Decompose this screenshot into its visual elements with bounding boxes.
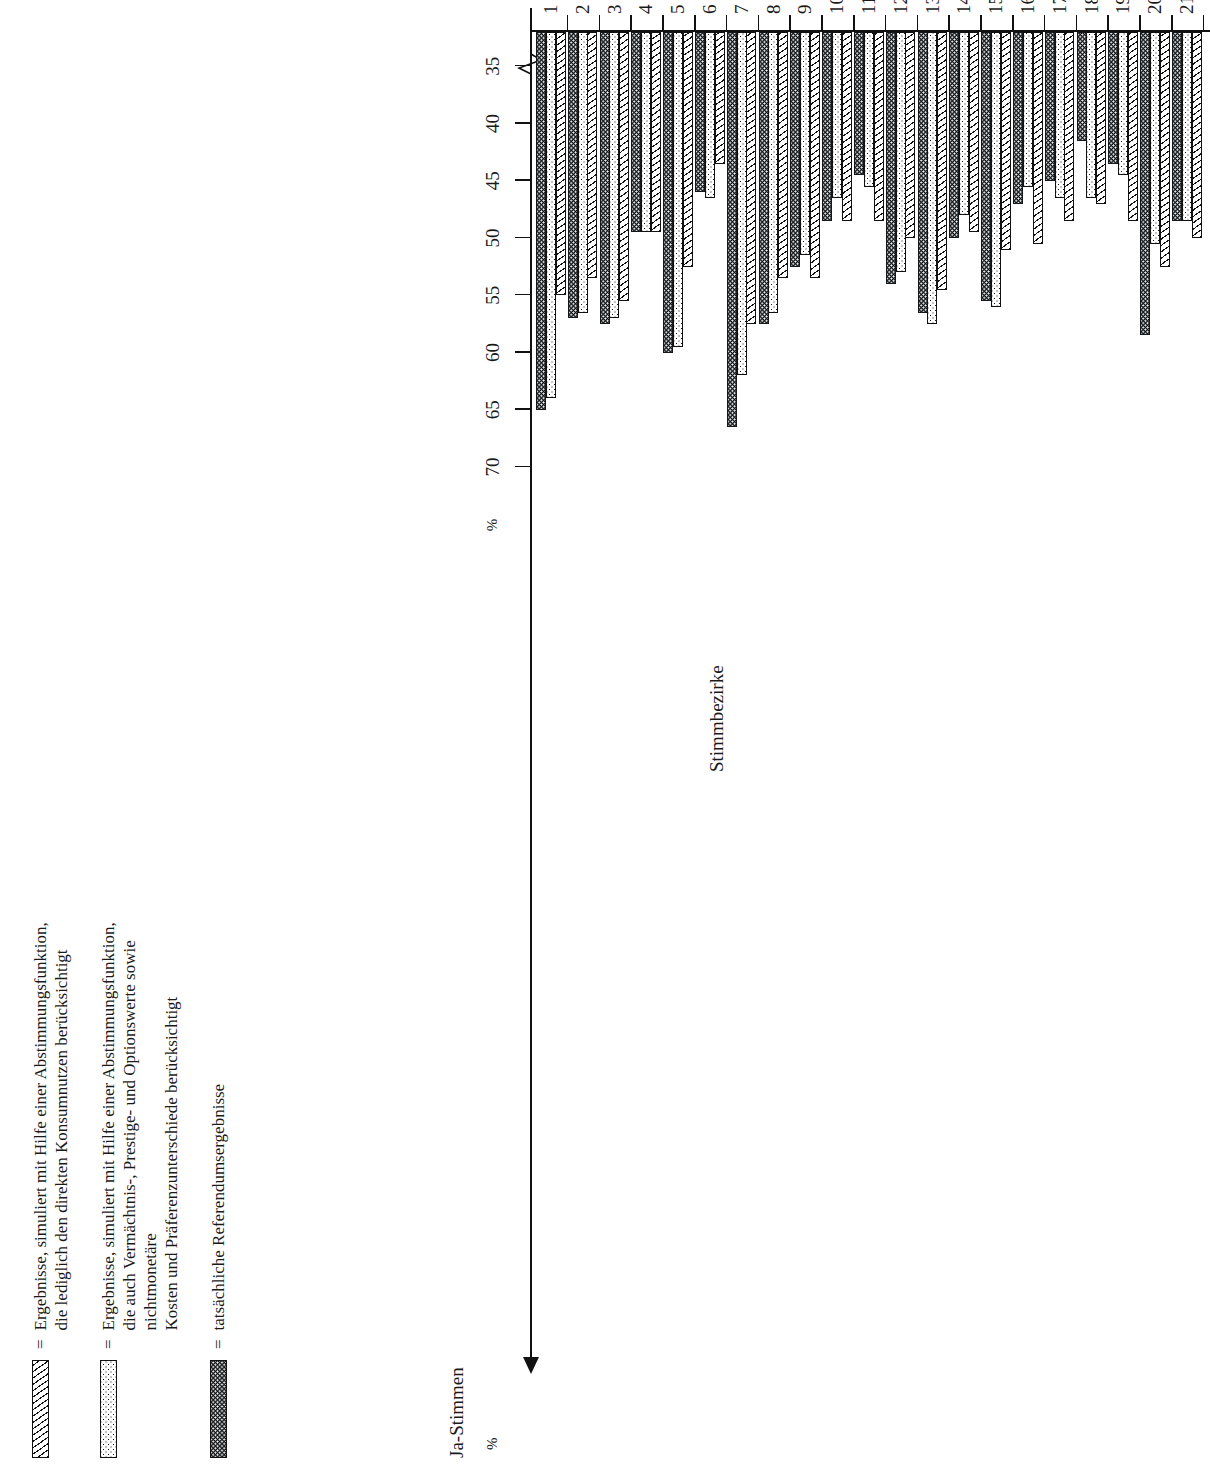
category-axis-tick	[726, 15, 728, 30]
category-axis-tick	[853, 15, 855, 30]
category-axis-label: 15	[985, 0, 1007, 14]
category-axis-label: 4	[635, 5, 657, 15]
value-axis-tick-label: 35	[482, 57, 504, 76]
bar	[556, 32, 566, 295]
category-axis-label: 9	[794, 5, 816, 15]
bar	[864, 32, 874, 187]
bar	[874, 32, 884, 221]
value-axis-tick-label: 45	[482, 171, 504, 190]
bar	[759, 32, 769, 324]
plot-area: 7065605550454035% 1234567891011121314151…	[470, 0, 750, 1476]
value-axis-tick-label: 55	[482, 286, 504, 305]
category-axis-tick	[630, 15, 632, 30]
bar	[842, 32, 852, 221]
value-axis-tick-label: 65	[482, 400, 504, 419]
bar	[810, 32, 820, 278]
category-axis-tick	[1203, 15, 1205, 30]
bar	[568, 32, 578, 318]
bar	[886, 32, 896, 284]
legend-item: = Ergebnisse, simuliert mit Hilfe einer …	[30, 858, 72, 1458]
bar	[854, 32, 864, 175]
value-axis-tick	[515, 179, 530, 181]
bar	[737, 32, 747, 376]
bar	[631, 32, 641, 232]
value-axis-tick	[515, 351, 530, 353]
legend-label: tatsächliche Referendumsergebnisse	[208, 1084, 229, 1331]
bar	[578, 32, 588, 313]
bar	[1001, 32, 1011, 250]
legend-label: Ergebnisse, simuliert mit Hilfe einer Ab…	[98, 858, 182, 1330]
bar	[1140, 32, 1150, 335]
category-axis-tick	[1012, 15, 1014, 30]
bar	[536, 32, 546, 410]
category-axis-tick	[1107, 15, 1109, 30]
category-axis-label: 18	[1081, 0, 1103, 14]
value-axis-tick-label: 50	[482, 229, 504, 248]
bar	[937, 32, 947, 290]
bar	[1077, 32, 1087, 141]
chart-legend: = Ergebnisse, simuliert mit Hilfe einer …	[30, 858, 255, 1458]
legend-equals-sign: =	[208, 1339, 229, 1349]
bar	[673, 32, 683, 347]
bar	[822, 32, 832, 221]
value-axis-tick	[515, 237, 530, 239]
value-axis-line	[530, 8, 532, 1358]
bar	[600, 32, 610, 324]
category-axis-tick	[917, 15, 919, 30]
bar	[546, 32, 556, 398]
category-axis-tick	[1076, 15, 1078, 30]
bar	[587, 32, 597, 278]
value-axis-tick-label: 40	[482, 114, 504, 133]
bar	[1118, 32, 1128, 175]
category-axis-tick	[948, 15, 950, 30]
bar	[991, 32, 1001, 307]
bar	[1086, 32, 1096, 198]
bar	[705, 32, 715, 198]
bar	[959, 32, 969, 215]
category-axis-label: 20	[1144, 0, 1166, 14]
legend-swatch-dark-icon	[210, 1360, 227, 1458]
category-axis-tick	[1044, 15, 1046, 30]
category-axis-label: 7	[731, 5, 753, 15]
value-axis-tick	[515, 122, 530, 124]
legend-equals-sign: =	[98, 1339, 119, 1349]
category-axis-label: 8	[763, 5, 785, 15]
bar	[905, 32, 915, 238]
category-axis-label: 2	[572, 5, 594, 15]
category-axis-label: 10	[826, 0, 848, 14]
bar	[1064, 32, 1074, 221]
value-axis-percent-label: %	[484, 519, 501, 532]
value-axis-tick	[515, 408, 530, 410]
category-axis-label: 14	[953, 0, 975, 14]
category-axis-tick	[885, 15, 887, 30]
bar	[715, 32, 725, 164]
legend-label: Ergebnisse, simuliert mit Hilfe einer Ab…	[30, 922, 72, 1330]
bar	[981, 32, 991, 301]
bar	[1023, 32, 1033, 187]
value-axis-tick-label: 60	[482, 343, 504, 362]
value-axis-tick	[515, 466, 530, 468]
value-axis-tick-label: 70	[482, 458, 504, 477]
category-axis-label: 19	[1112, 0, 1134, 14]
bar	[609, 32, 619, 318]
bar	[1108, 32, 1118, 164]
category-axis-tick	[980, 15, 982, 30]
category-axis-label: 3	[604, 5, 626, 15]
value-axis-arrow-icon	[523, 1357, 539, 1374]
category-axis-label: 6	[699, 5, 721, 15]
bar	[832, 32, 842, 198]
bar	[663, 32, 673, 353]
bar	[1055, 32, 1065, 198]
bar	[800, 32, 810, 255]
legend-swatch-hatch-icon	[32, 1360, 49, 1458]
category-axis-tick	[1171, 15, 1173, 30]
bar	[1160, 32, 1170, 267]
category-axis-tick	[567, 15, 569, 30]
category-axis-tick	[694, 15, 696, 30]
bar	[727, 32, 737, 427]
category-axis-label: 13	[922, 0, 944, 14]
category-axis-tick	[1139, 15, 1141, 30]
category-axis-label: 12	[890, 0, 912, 14]
bar	[1182, 32, 1192, 221]
